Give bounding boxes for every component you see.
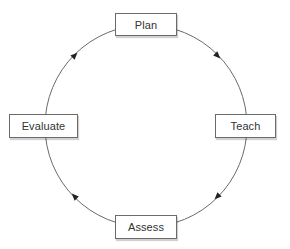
arrow-evaluate-to-plan-icon bbox=[70, 51, 79, 60]
node-plan: Plan bbox=[115, 13, 177, 36]
arrow-plan-to-teach-icon bbox=[213, 51, 222, 60]
node-assess: Assess bbox=[115, 215, 177, 239]
node-evaluate-label: Evaluate bbox=[22, 120, 66, 132]
node-teach-label: Teach bbox=[231, 120, 261, 132]
arrow-teach-to-assess-icon bbox=[212, 192, 221, 201]
node-teach: Teach bbox=[215, 114, 276, 138]
node-plan-label: Plan bbox=[135, 19, 157, 31]
node-assess-label: Assess bbox=[128, 221, 164, 233]
arrow-assess-to-evaluate-icon bbox=[70, 191, 79, 200]
node-evaluate: Evaluate bbox=[9, 114, 78, 138]
